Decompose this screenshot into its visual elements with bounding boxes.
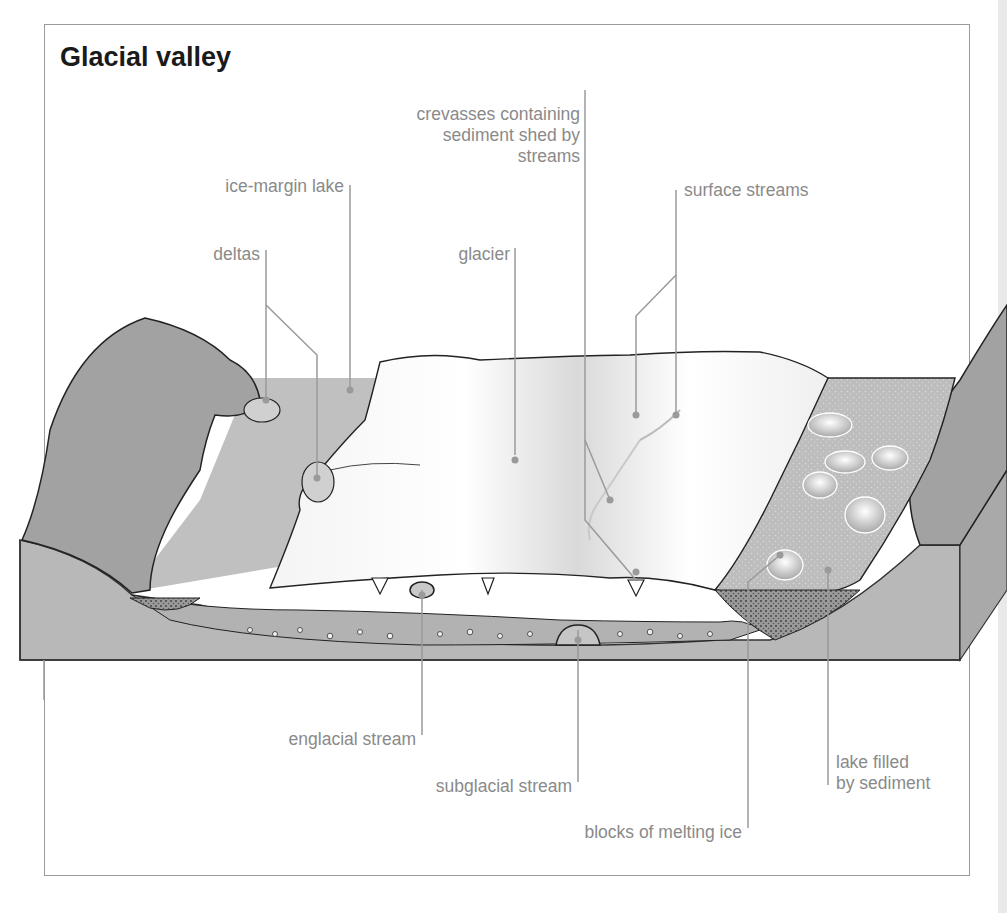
label-subglacial-stream: subglacial stream [360,776,572,797]
label-crevasses: crevasses containing sediment shed by st… [380,104,580,167]
label-lake-filled-by-sediment: lake filled by sediment [836,752,930,794]
delta-upper [244,398,280,422]
label-englacial-stream: englacial stream [200,729,416,750]
label-deltas: deltas [180,244,260,265]
label-ice-margin-lake: ice-margin lake [180,176,344,197]
label-blocks-of-melting-ice: blocks of melting ice [520,822,742,843]
delta-lower [302,462,334,502]
label-glacier: glacier [420,244,510,265]
label-surface-streams: surface streams [684,180,808,201]
